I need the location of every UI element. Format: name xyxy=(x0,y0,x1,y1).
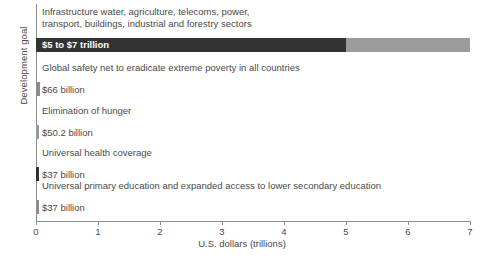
x-tick-label: 0 xyxy=(26,226,46,237)
bar-value-segment xyxy=(36,200,39,214)
x-tick-mark xyxy=(346,221,347,225)
bar-value-segment xyxy=(36,167,39,181)
x-axis-line xyxy=(36,221,471,222)
x-tick-mark xyxy=(160,221,161,225)
x-tick-mark xyxy=(470,221,471,225)
bar xyxy=(36,200,38,214)
category-label: Elimination of hunger xyxy=(42,105,131,117)
bar-value-segment xyxy=(36,82,40,96)
bar-range-segment xyxy=(346,38,470,52)
bar xyxy=(36,167,38,181)
x-axis-title: U.S. dollars (trillions) xyxy=(0,238,484,249)
bar: $5 to $7 trillion xyxy=(36,38,470,52)
x-tick-label: 6 xyxy=(398,226,418,237)
category-label: Universal primary education and expanded… xyxy=(42,180,381,192)
development-goal-cost-chart: Development goal 01234567 U.S. dollars (… xyxy=(0,0,484,256)
x-tick-label: 4 xyxy=(274,226,294,237)
x-tick-label: 7 xyxy=(460,226,480,237)
x-tick-label: 2 xyxy=(150,226,170,237)
bar-value-segment xyxy=(36,125,39,139)
bar-value-label: $5 to $7 trillion xyxy=(42,38,109,52)
x-tick-mark xyxy=(98,221,99,225)
category-label: Universal health coverage xyxy=(42,147,152,159)
x-tick-mark xyxy=(408,221,409,225)
x-tick-label: 3 xyxy=(212,226,232,237)
bar-value-label: $66 billion xyxy=(42,83,85,96)
bar xyxy=(36,82,40,96)
x-tick-mark xyxy=(36,221,37,225)
category-label: Infrastructure water, agriculture, telec… xyxy=(42,6,252,29)
bar xyxy=(36,125,39,139)
y-axis-title: Development goal xyxy=(18,0,29,151)
x-tick-mark xyxy=(222,221,223,225)
x-tick-label: 5 xyxy=(336,226,356,237)
x-tick-label: 1 xyxy=(88,226,108,237)
x-tick-mark xyxy=(284,221,285,225)
bar-value-label: $37 billion xyxy=(42,201,85,214)
bar-value-label: $50.2 billion xyxy=(42,126,93,139)
category-label: Global safety net to eradicate extreme p… xyxy=(42,62,300,74)
